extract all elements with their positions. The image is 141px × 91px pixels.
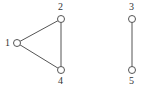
node-5 — [129, 67, 136, 74]
labels-group: 12345 — [5, 1, 134, 86]
node-label-4: 4 — [58, 75, 63, 86]
node-1 — [14, 40, 21, 47]
node-label-1: 1 — [5, 37, 10, 48]
graph-svg: 12345 — [0, 0, 141, 91]
graph-diagram: 12345 — [0, 0, 141, 91]
edge-1-2 — [17, 19, 61, 43]
node-4 — [58, 67, 65, 74]
edge-1-4 — [17, 43, 61, 70]
node-label-5: 5 — [129, 75, 134, 86]
node-label-3: 3 — [129, 1, 134, 12]
node-label-2: 2 — [58, 1, 63, 12]
node-2 — [58, 16, 65, 23]
node-3 — [129, 16, 136, 23]
nodes-group — [14, 16, 136, 74]
edges-group — [17, 19, 132, 70]
